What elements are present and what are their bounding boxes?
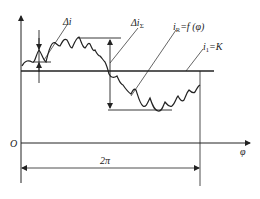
delta-i-leader <box>44 25 67 60</box>
x-axis-label: φ <box>240 146 246 157</box>
i-r-leader <box>131 30 176 96</box>
period-label: 2π <box>100 155 111 166</box>
origin-label: O <box>10 138 17 149</box>
ripple-current-curve <box>22 37 200 111</box>
delta-i-sigma-label: ΔiΣ <box>130 17 144 30</box>
ripple-current-diagram: O φ 2π Δi ΔiΣ iR=f (φ) i1=K <box>0 0 260 199</box>
i-1-equation: =K <box>209 41 224 52</box>
i-1-label: i1=K <box>203 41 224 53</box>
i-r-equation: =f (φ) <box>180 21 205 33</box>
i-r-label: iR=f (φ) <box>173 21 205 33</box>
delta-i-sigma-leader <box>110 28 138 63</box>
delta-i-sigma-subscript: Σ <box>140 22 144 30</box>
delta-i-text: Δi <box>62 16 72 27</box>
delta-i-sigma-text: Δi <box>130 17 140 28</box>
delta-i-label: Δi <box>62 16 72 27</box>
i-1-leader <box>186 49 203 71</box>
